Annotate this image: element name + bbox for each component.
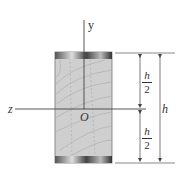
y-axis-label: y: [88, 19, 94, 31]
z-axis-label: z: [8, 103, 13, 115]
origin-label: O: [80, 111, 89, 123]
bottom-edge-band: [55, 156, 112, 163]
top-edge-band: [55, 52, 112, 59]
upper-half-label: h 2: [142, 70, 152, 95]
total-height-label: h: [162, 103, 168, 115]
lower-half-label: h 2: [142, 126, 152, 151]
wood-rectangle: [55, 52, 112, 163]
